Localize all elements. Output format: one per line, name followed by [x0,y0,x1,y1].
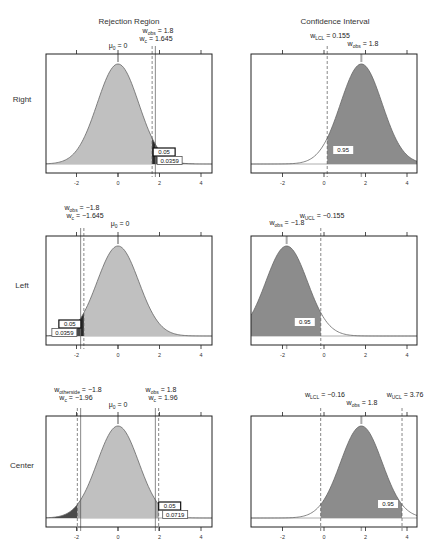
x-tick-label: 0 [116,534,119,540]
x-tick-label: 4 [199,352,202,358]
pvalue-label-box: 0.0359 [157,157,182,165]
panel-ci-left: 0.95-2024 [251,228,417,358]
row-label-center: Center [10,461,34,470]
svg-text:0.05: 0.05 [164,503,176,509]
x-tick-label: 0 [322,180,325,186]
annotation-wc: wc = −1.645 [65,212,103,221]
confidence-label-box: 0.95 [378,500,398,508]
annotation-wc: wc = 1.645 [138,35,172,44]
alpha-label-box: 0.05 [59,320,81,328]
x-tick-label: 0 [116,352,119,358]
x-tick-label: 4 [405,180,408,186]
annotation-mu0: μ0 = 0 [109,42,128,51]
annotation-wobs: wobs = −1.8 [269,219,305,228]
x-tick-label: 2 [364,534,367,540]
acceptance-region [84,246,212,336]
annotation-mu0: μ0 = 0 [109,401,128,410]
annotation-wc-right: wc = 1.96 [147,394,177,403]
column-title-confidence: Confidence Interval [301,17,370,26]
annotation-wobs: wobs = 1.8 [347,40,379,49]
pvalue-label-box: 0.0359 [52,329,77,337]
alpha-label-box: 0.05 [153,148,175,156]
x-tick-label: 0 [322,534,325,540]
annotation-wobs: wobs = 1.8 [346,399,378,408]
pvalue-label-box: 0.0719 [163,511,188,519]
x-tick-label: -2 [280,180,285,186]
svg-text:0.95: 0.95 [382,501,394,507]
panel-rejection-right: 0.050.0359-2024 [46,46,212,186]
row-label-right: Right [13,95,32,104]
annotation-wlcl: wLCL = −0.16 [304,391,345,400]
svg-text:0.0359: 0.0359 [55,330,74,336]
x-tick-label: 2 [364,352,367,358]
panel-ci-right: 0.95-2024 [251,46,417,186]
x-tick-label: -2 [74,534,79,540]
figure: Rejection Region Confidence Interval Rig… [0,0,437,559]
annotation-wucl: wUCL = 3.76 [386,391,424,400]
x-tick-label: 4 [199,534,202,540]
acceptance-region [46,64,152,164]
x-tick-label: 2 [158,534,161,540]
x-tick-label: 2 [158,180,161,186]
column-title-rejection: Rejection Region [99,17,160,26]
row-label-left: Left [15,281,29,290]
svg-text:0.95: 0.95 [299,319,311,325]
x-tick-label: 2 [364,180,367,186]
confidence-label-box: 0.95 [333,146,353,154]
x-tick-label: 0 [322,352,325,358]
x-tick-label: 4 [405,352,408,358]
svg-text:0.05: 0.05 [158,149,170,155]
panel-rejection-left: 0.050.0359-2024 [46,228,212,358]
acceptance-region [77,426,158,518]
svg-text:0.0359: 0.0359 [160,158,179,164]
x-tick-label: 2 [158,352,161,358]
annotation-wucl: wUCL = −0.155 [299,212,345,221]
x-tick-label: 4 [405,534,408,540]
svg-text:0.0719: 0.0719 [166,512,185,518]
x-tick-label: -2 [280,352,285,358]
panel-rejection-center: 0.050.0719-2024 [46,408,212,540]
svg-text:0.95: 0.95 [337,147,349,153]
alpha-label-box: 0.05 [159,502,181,510]
x-tick-label: -2 [74,180,79,186]
annotation-mu0: μ0 = 0 [111,220,130,229]
x-tick-label: -2 [74,352,79,358]
annotation-wc-left: wc = −1.96 [58,394,92,403]
svg-text:0.05: 0.05 [64,321,76,327]
annotation-wlcl: wLCL = 0.155 [309,32,350,41]
x-tick-label: 4 [199,180,202,186]
confidence-label-box: 0.95 [295,318,315,326]
x-tick-label: 0 [116,180,119,186]
x-tick-label: -2 [280,534,285,540]
panel-ci-center: 0.95-2024 [251,408,417,540]
